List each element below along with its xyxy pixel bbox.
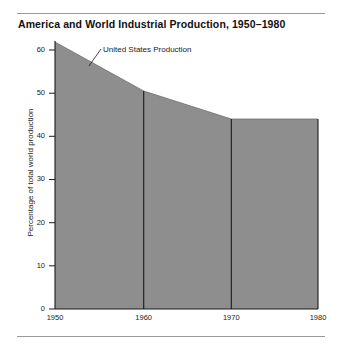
x-tick-label-1950: 1950 (33, 314, 77, 322)
series-annotation-label: United States Production (103, 45, 192, 54)
x-tick-label-1980: 1980 (296, 314, 340, 322)
annotation-leader-line (89, 49, 101, 66)
y-tick-label-60: 60 (19, 46, 45, 54)
y-tick-marks (49, 50, 55, 309)
y-axis-title: Percentage of total world production (26, 73, 35, 273)
bottom-divider-rule (17, 336, 325, 337)
plot-area: 60 50 40 30 20 10 0 1950 1960 1970 1980 … (0, 0, 343, 353)
area-series-us-production (55, 42, 318, 309)
x-tick-label-1970: 1970 (209, 314, 253, 322)
x-tick-label-1960: 1960 (122, 314, 166, 322)
y-tick-label-0: 0 (19, 305, 45, 313)
figure-container: America and World Industrial Production,… (0, 0, 343, 353)
